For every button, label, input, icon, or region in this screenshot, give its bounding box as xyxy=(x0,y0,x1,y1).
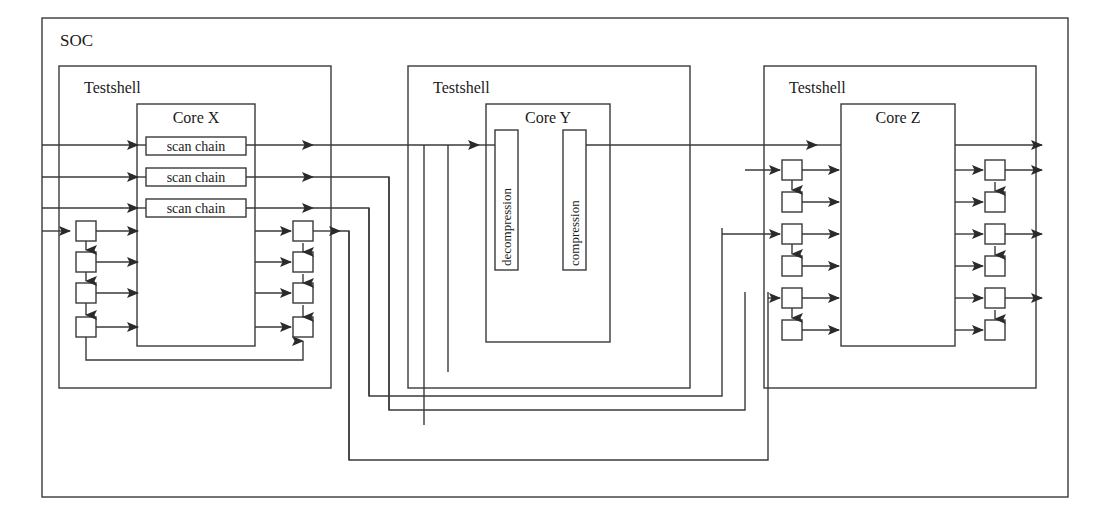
soc-label: SOC xyxy=(60,31,93,50)
bypass-box-x-left-4 xyxy=(76,317,96,337)
bypass-box-x-right-4 xyxy=(293,317,313,337)
compression-label: compression xyxy=(567,200,582,266)
soc-boundary xyxy=(42,18,1068,497)
scan-chain-label-2: scan chain xyxy=(167,170,226,185)
bypass-box-x-left-2 xyxy=(76,252,96,272)
testshell-label-y: Testshell xyxy=(433,79,490,96)
bypass-box-z-right-1 xyxy=(985,160,1005,180)
decompression-label: decompression xyxy=(499,188,514,266)
core-z-label: Core Z xyxy=(876,109,921,126)
scan-chain-label-1: scan chain xyxy=(167,139,226,154)
bypass-box-z-right-3 xyxy=(985,224,1005,244)
core-x-label: Core X xyxy=(173,109,220,126)
bypass-box-z-right-2 xyxy=(985,192,1005,212)
bypass-box-z-left-3 xyxy=(782,224,802,244)
bypass-box-x-left-1 xyxy=(76,221,96,241)
bypass-box-z-left-1 xyxy=(782,160,802,180)
scan-chain-label-3: scan chain xyxy=(167,201,226,216)
bypass-box-x-left-3 xyxy=(76,283,96,303)
soc-block-diagram: SOC Testshell Testshell Testshell Core X… xyxy=(0,0,1100,521)
bypass-box-x-right-1 xyxy=(293,221,313,241)
diagram-canvas: SOC Testshell Testshell Testshell Core X… xyxy=(0,0,1100,521)
testshell-label-x: Testshell xyxy=(84,79,141,96)
bypass-box-x-right-2 xyxy=(293,252,313,272)
bypass-box-z-right-4 xyxy=(985,256,1005,276)
bypass-box-z-right-5 xyxy=(985,288,1005,308)
bypass-box-z-left-6 xyxy=(782,320,802,340)
testshell-label-z: Testshell xyxy=(789,79,846,96)
bypass-box-z-left-4 xyxy=(782,256,802,276)
core-y-label: Core Y xyxy=(525,109,572,126)
bypass-box-z-left-2 xyxy=(782,192,802,212)
bypass-box-z-right-6 xyxy=(985,320,1005,340)
bypass-box-z-left-5 xyxy=(782,288,802,308)
bypass-box-x-right-3 xyxy=(293,283,313,303)
